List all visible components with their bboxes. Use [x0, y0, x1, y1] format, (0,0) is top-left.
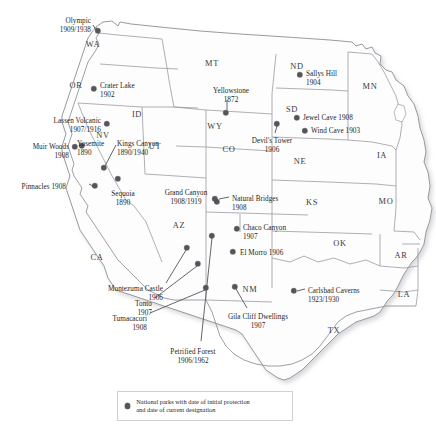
park-label: Sallys Hill1904 — [306, 70, 337, 87]
state-label-nv: NV — [96, 131, 110, 140]
park-label: Carlsbad Caverns1923/1930 — [308, 287, 360, 304]
state-label-ok: OK — [333, 239, 347, 248]
park-dates: 1907/1916 — [0, 126, 101, 135]
park-dates: 1907 — [198, 322, 318, 331]
park-dates: 1890 — [77, 149, 104, 158]
state-label-id: ID — [132, 110, 142, 119]
state-label-or: OR — [69, 81, 82, 90]
park-name: Olympic — [65, 17, 91, 25]
park-name: Montezuma Castle — [108, 285, 163, 293]
park-name: Muir Woods — [33, 143, 69, 151]
park-name: Yellowstone — [213, 87, 249, 95]
park-label: Natural Bridges1908 — [232, 195, 278, 212]
park-label: Gila Cliff Dwellings1907 — [198, 313, 318, 330]
park-name: Pinnacles 1908 — [22, 183, 66, 191]
state-label-wa: WA — [86, 40, 100, 49]
state-label-az: AZ — [173, 221, 186, 230]
park-label: Petrified Forest1906/1962 — [133, 348, 253, 365]
state-label-sd: SD — [286, 105, 298, 114]
state-label-tx: TX — [328, 326, 341, 335]
park-name: Carlsbad Caverns — [308, 287, 360, 295]
park-dates: 1908 — [0, 152, 69, 161]
park-name: Crater Lake — [100, 82, 135, 90]
park-name: Tumacacori — [112, 315, 147, 323]
park-label: Wind Cave 1903 — [311, 127, 360, 136]
park-label: Grand Canyon1908/1919 — [126, 189, 246, 206]
park-name: Natural Bridges — [232, 195, 278, 203]
park-dates: 1923/1930 — [308, 296, 360, 305]
park-label: Tumacacori1908 — [0, 315, 147, 332]
state-label-mo: MO — [379, 197, 394, 206]
park-label: Olympic1909/1938 — [0, 17, 91, 34]
park-name: Jewel Cave 1908 — [303, 114, 353, 122]
park-label: Jewel Cave 1908 — [303, 114, 353, 123]
park-name: Gila Cliff Dwellings — [228, 313, 288, 321]
legend-text: National parks with date of initial prot… — [136, 398, 250, 415]
map-legend: National parks with date of initial prot… — [117, 391, 293, 421]
legend-dot-icon — [125, 403, 130, 408]
park-label: Pinnacles 1908 — [0, 183, 66, 192]
park-dates: 1908 — [232, 204, 278, 213]
state-label-ia: IA — [377, 151, 387, 160]
park-dates: 1909/1938 — [0, 26, 91, 35]
park-name: Chaco Canyon — [243, 224, 286, 232]
park-label: Muir Woods1908 — [0, 143, 69, 160]
us-national-parks-map: Olympic1909/1938Crater Lake1902Lassen Vo… — [0, 0, 436, 433]
state-label-ar: AR — [394, 251, 407, 260]
state-label-la: LA — [398, 290, 411, 299]
state-label-ut: UT — [149, 142, 162, 151]
park-name: Wind Cave 1903 — [311, 127, 360, 135]
park-label: Yellowstone1872 — [171, 87, 291, 104]
park-dates: 1908 — [0, 324, 147, 333]
legend-line-1: National parks with date of initial prot… — [136, 398, 250, 405]
park-name: Petrified Forest — [170, 348, 215, 356]
state-label-ca: CA — [90, 253, 103, 262]
state-label-mn: MN — [363, 82, 378, 91]
park-name: Sallys Hill — [306, 70, 337, 78]
legend-line-2: and date of current designation — [136, 406, 215, 413]
state-label-ks: KS — [306, 198, 318, 207]
park-dates: 1908/1919 — [126, 198, 246, 207]
park-label: Yosemite1890 — [77, 140, 104, 157]
park-name: Devil's Tower — [252, 137, 293, 145]
park-name: Tonto — [135, 300, 152, 308]
park-dates: 1872 — [171, 96, 291, 105]
state-label-nd: ND — [290, 62, 304, 71]
state-label-wy: WY — [207, 122, 222, 131]
park-label: Lassen Volcanic1907/1916 — [0, 117, 101, 134]
park-name: Yosemite — [77, 140, 104, 148]
park-dates: 1904 — [306, 79, 337, 88]
park-dates: 1906/1962 — [133, 357, 253, 366]
park-label: El Morro 1906 — [240, 249, 283, 258]
park-name: Grand Canyon — [165, 189, 208, 197]
state-label-co: CO — [222, 145, 235, 154]
state-label-ne: NE — [294, 157, 307, 166]
park-label: Crater Lake1902 — [100, 82, 135, 99]
park-label: Chaco Canyon1907 — [243, 224, 286, 241]
park-name: Lassen Volcanic — [54, 117, 101, 125]
state-label-nm: NM — [243, 285, 258, 294]
state-label-mt: MT — [205, 59, 219, 68]
park-dates: 1902 — [100, 91, 135, 100]
park-dates: 1907 — [243, 233, 286, 242]
park-name: El Morro 1906 — [240, 249, 283, 257]
